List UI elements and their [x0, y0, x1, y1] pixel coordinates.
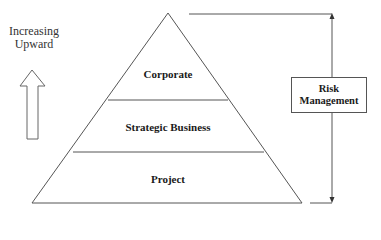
side-label: Increasing Upward: [8, 25, 60, 51]
risk-management-box: Risk Management: [291, 77, 367, 113]
side-label-line2: Upward: [8, 38, 60, 51]
risk-management-line1: Risk: [319, 83, 339, 95]
level-project: Project: [151, 173, 185, 185]
level-strategic-business: Strategic Business: [125, 121, 210, 133]
level-corporate: Corporate: [144, 68, 193, 80]
increasing-upward-arrow-icon: [20, 70, 45, 139]
risk-management-line2: Management: [300, 95, 359, 107]
arrowhead-down-icon: [330, 197, 335, 203]
